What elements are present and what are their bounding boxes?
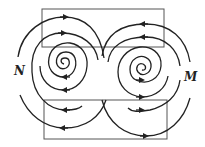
label-m: M (184, 70, 197, 84)
right-vortex (102, 24, 190, 136)
upper-rectangle (42, 9, 164, 47)
lower-rectangle (44, 100, 167, 139)
label-n: N (14, 64, 25, 78)
field-lines-canvas (0, 0, 205, 147)
left-vortex (18, 17, 106, 128)
vortex-diagram: N M (0, 0, 205, 147)
